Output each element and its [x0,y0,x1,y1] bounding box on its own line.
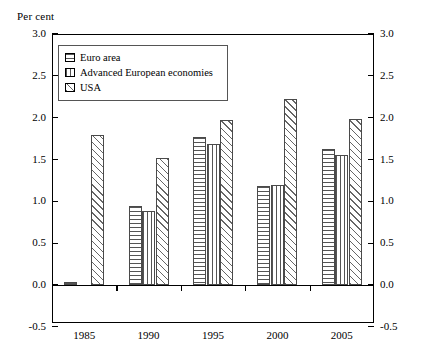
y-tick-right [368,201,374,202]
bar-1985-horizontal-lines [64,282,77,285]
y-tick-right [368,159,374,160]
legend-item-advanced-european-economies: Advanced European economies [65,65,221,80]
legend-item-usa: USA [65,80,221,95]
bar-1995-vertical-lines [207,144,220,285]
legend-label-usa: USA [80,81,101,94]
y-tick-label-right: 1.0 [380,194,412,206]
y-tick-left [52,117,58,118]
x-tick [245,285,246,291]
bar-2000-diagonal-hatch [284,99,297,285]
bar-1990-vertical-lines [142,211,155,285]
bar-1990-horizontal-lines [129,206,142,285]
y-tick-right [368,284,374,285]
chart-legend: Euro area Advanced European economies US… [58,45,228,101]
zero-baseline [52,285,374,286]
y-tick-right [368,326,374,327]
bar-1995-horizontal-lines [193,137,206,285]
x-tick-label: 2005 [312,329,372,341]
y-tick-right [368,33,374,34]
y-tick-label-left: 3.0 [14,27,46,39]
legend-label-euro-area: Euro area [80,51,121,64]
y-tick-left [52,201,58,202]
y-tick-left [52,326,58,327]
axis-unit-label: Per cent [17,10,54,22]
y-tick-label-right: -0.5 [380,320,412,332]
bar-2005-horizontal-lines [322,149,335,285]
x-tick-label: 1995 [183,329,243,341]
y-tick-label-left: 0.0 [14,278,46,290]
y-tick-label-left: 0.5 [14,236,46,248]
x-tick [310,285,311,291]
y-tick-left [52,284,58,285]
y-tick-label-right: 2.5 [380,69,412,81]
x-tick [116,285,117,291]
y-tick-label-left: 2.5 [14,69,46,81]
y-tick-label-left: 1.5 [14,153,46,165]
y-tick-right [368,117,374,118]
y-tick-right [368,75,374,76]
y-tick-label-right: 1.5 [380,153,412,165]
legend-swatch-diagonal-hatch-icon [65,83,75,92]
bar-1985-diagonal-hatch [91,135,104,285]
y-tick-label-right: 0.0 [380,278,412,290]
y-tick-label-left: -0.5 [14,320,46,332]
legend-swatch-horizontal-lines-icon [65,53,75,62]
y-tick-right [368,243,374,244]
y-tick-label-right: 3.0 [380,27,412,39]
legend-label-advanced-european-economies: Advanced European economies [80,66,213,79]
bar-1995-diagonal-hatch [220,120,233,285]
x-tick-label: 1985 [54,329,114,341]
y-tick-left [52,243,58,244]
legend-item-euro-area: Euro area [65,50,221,65]
bar-1990-diagonal-hatch [156,158,169,285]
y-tick-left [52,33,58,34]
bar-2000-horizontal-lines [257,186,270,285]
y-tick-label-left: 2.0 [14,111,46,123]
y-tick-label-left: 1.0 [14,194,46,206]
x-tick [181,285,182,291]
bar-2000-vertical-lines [271,185,284,285]
x-tick-label: 1990 [119,329,179,341]
y-tick-label-right: 0.5 [380,236,412,248]
y-tick-label-right: 2.0 [380,111,412,123]
y-tick-left [52,159,58,160]
bar-2005-diagonal-hatch [349,119,362,285]
bar-2005-vertical-lines [335,155,348,285]
bar-chart: Per cent 3.03.02.52.52.02.01.51.51.01.00… [0,0,425,354]
x-tick-label: 2000 [247,329,307,341]
legend-swatch-vertical-lines-icon [65,68,75,77]
